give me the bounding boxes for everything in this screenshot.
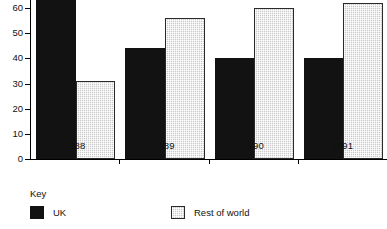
legend-label-uk: UK	[53, 208, 66, 218]
y-tick-mark	[25, 33, 30, 34]
x-axis-label-1988: 1988	[64, 141, 85, 151]
bar-1991-rest-of-world	[343, 3, 383, 159]
x-tick-mark	[209, 159, 210, 164]
bar-1989-rest-of-world	[165, 18, 205, 159]
y-tick-mark	[25, 84, 30, 85]
bar-1988-uk	[36, 0, 76, 159]
y-tick-label: 40	[12, 54, 23, 64]
legend-title: Key	[30, 189, 46, 199]
y-axis-line	[30, 0, 31, 160]
x-axis-label-1990: 1990	[243, 141, 264, 151]
bar-1990-rest-of-world	[254, 8, 294, 159]
legend-label-rest-of-world: Rest of world	[194, 208, 249, 218]
y-tick-mark	[25, 159, 30, 160]
legend-swatch-uk-icon	[30, 206, 44, 219]
bar-chart: 0102030405060 1988198919901991 Key UK Re…	[0, 0, 387, 229]
y-tick-mark	[25, 8, 30, 9]
x-tick-mark	[298, 159, 299, 164]
x-tick-mark	[119, 159, 120, 164]
y-tick-mark	[25, 109, 30, 110]
plot-area: 0102030405060 1988198919901991	[30, 0, 387, 160]
y-tick-label: 0	[18, 154, 23, 164]
y-tick-label: 30	[12, 79, 23, 89]
y-tick-mark	[25, 134, 30, 135]
y-tick-label: 60	[12, 3, 23, 13]
x-axis-label-1989: 1989	[153, 141, 174, 151]
legend-entry-uk: UK	[30, 206, 66, 219]
x-axis-label-1991: 1991	[332, 141, 353, 151]
legend: Key UK Rest of world	[30, 189, 370, 229]
legend-swatch-rest-of-world-icon	[171, 206, 185, 219]
y-tick-mark	[25, 58, 30, 59]
legend-entry-rest-of-world: Rest of world	[171, 206, 249, 219]
y-tick-label: 20	[12, 104, 23, 114]
y-tick-label: 10	[12, 129, 23, 139]
y-tick-label: 50	[12, 29, 23, 39]
